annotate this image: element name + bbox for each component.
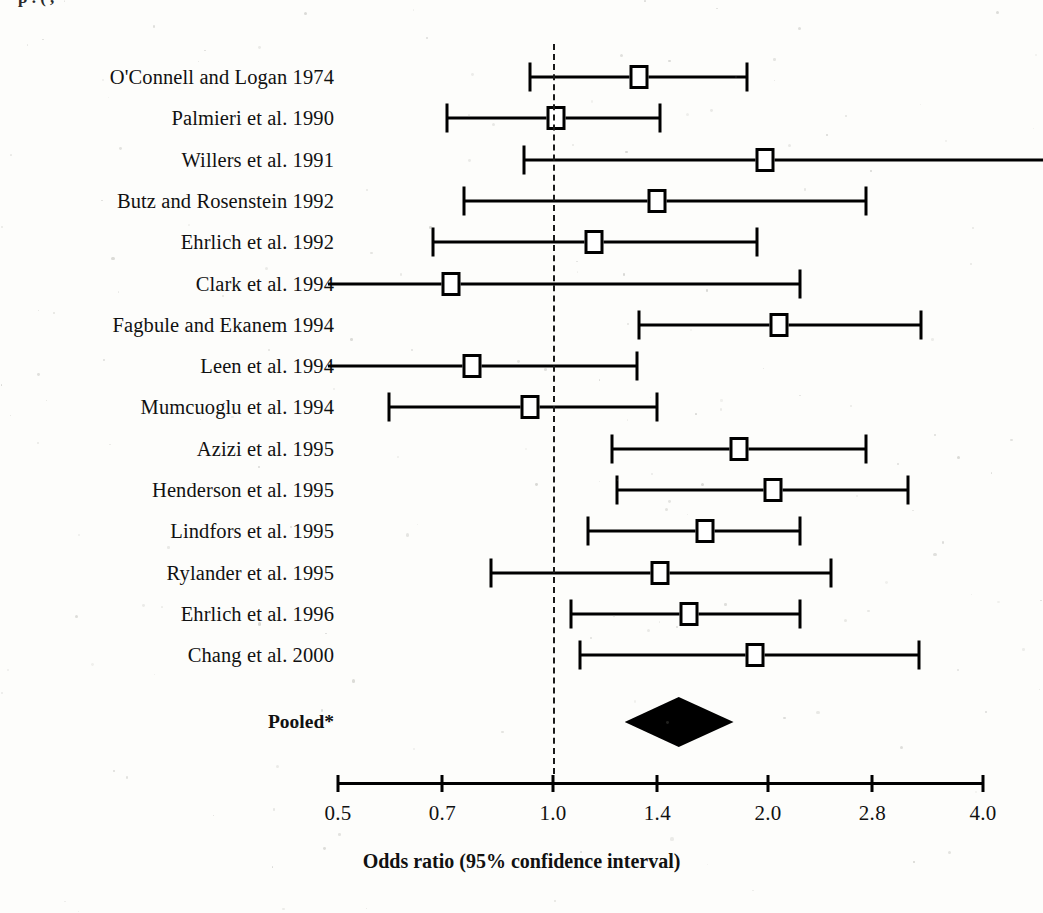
texture-speck (468, 114, 470, 116)
study-label: Lindfors et al. 1995 (170, 520, 334, 543)
texture-speck (153, 25, 156, 28)
x-axis-line (338, 782, 983, 785)
texture-speck (957, 669, 959, 671)
ci-upper-cap (917, 641, 920, 670)
texture-speck (1, 226, 3, 228)
texture-speck (971, 594, 972, 595)
texture-speck (690, 329, 692, 331)
texture-speck (620, 54, 623, 57)
texture-speck (27, 44, 28, 45)
point-estimate-marker (462, 354, 481, 378)
texture-speck (64, 901, 66, 903)
point-estimate-marker (547, 106, 566, 130)
texture-speck (222, 295, 224, 297)
x-axis-tick-label: 4.0 (969, 801, 996, 826)
texture-speck (991, 472, 992, 473)
texture-speck (913, 861, 914, 862)
x-axis-tick (552, 775, 555, 792)
texture-speck (710, 109, 713, 112)
texture-speck (799, 395, 801, 397)
texture-speck (118, 291, 120, 293)
texture-speck (856, 495, 858, 497)
texture-speck (213, 815, 214, 816)
texture-speck (102, 79, 104, 81)
x-axis-tick-label: 0.5 (324, 801, 351, 826)
texture-speck (816, 711, 819, 714)
texture-speck (1035, 54, 1037, 56)
point-estimate-marker (763, 478, 782, 502)
texture-speck (101, 200, 102, 201)
texture-speck (945, 140, 947, 142)
x-axis-tick-label: 1.4 (644, 801, 671, 826)
study-label: Palmieri et al. 1990 (171, 107, 334, 130)
texture-speck (119, 147, 122, 150)
ci-lower-cap (490, 558, 493, 587)
texture-speck (668, 500, 671, 503)
texture-speck (554, 900, 556, 902)
forest-plot: p . ( , O'Connell and Logan 1974Palmieri… (0, 0, 1043, 913)
texture-speck (429, 226, 432, 229)
ci-upper-cap (920, 310, 923, 339)
texture-speck (1033, 128, 1035, 130)
texture-speck (38, 310, 39, 311)
texture-speck (826, 134, 828, 136)
texture-speck (406, 533, 409, 536)
texture-speck (627, 323, 630, 326)
study-label: Leen et al. 1994 (200, 355, 334, 378)
confidence-interval-line (328, 365, 637, 368)
ci-lower-cap (388, 393, 391, 422)
texture-speck (724, 603, 727, 606)
texture-speck (623, 273, 625, 275)
texture-speck (701, 483, 704, 486)
texture-speck (53, 312, 55, 314)
texture-speck (900, 746, 903, 749)
texture-speck (576, 261, 577, 262)
x-axis-tick-label: 1.0 (539, 801, 566, 826)
study-label: O'Connell and Logan 1974 (110, 66, 334, 89)
texture-speck (997, 601, 1000, 604)
ci-lower-cap (522, 145, 525, 174)
ci-upper-cap (658, 104, 661, 133)
study-label: Mumcuoglu et al. 1994 (141, 396, 334, 419)
ci-upper-cap (746, 63, 749, 92)
texture-speck (350, 338, 353, 341)
texture-speck (37, 442, 39, 444)
texture-speck (647, 629, 650, 632)
ci-upper-cap (829, 558, 832, 587)
texture-speck (985, 711, 987, 713)
texture-speck (590, 637, 592, 639)
texture-speck (78, 911, 80, 913)
texture-speck (471, 73, 474, 76)
texture-speck (161, 606, 163, 608)
ci-lower-cap (445, 104, 448, 133)
texture-speck (188, 224, 190, 226)
texture-speck (867, 610, 870, 613)
texture-speck (763, 368, 764, 369)
texture-speck (338, 833, 341, 836)
texture-speck (580, 851, 582, 853)
texture-speck (282, 908, 285, 911)
texture-speck (957, 456, 960, 459)
texture-speck (897, 463, 898, 464)
texture-speck (258, 622, 261, 625)
confidence-interval-line (328, 282, 800, 285)
x-axis-tick-label: 2.0 (754, 801, 781, 826)
texture-speck (651, 473, 653, 475)
texture-speck (91, 663, 94, 666)
point-estimate-marker (442, 272, 461, 296)
x-axis-tick (441, 775, 444, 792)
texture-speck (659, 621, 661, 623)
ci-lower-cap (529, 63, 532, 92)
texture-speck (920, 104, 921, 105)
texture-speck (804, 188, 806, 190)
texture-speck (75, 615, 78, 618)
texture-speck (644, 0, 646, 2)
x-axis-tick (656, 775, 659, 792)
pooled-label: Pooled* (268, 711, 334, 733)
study-label: Ehrlich et al. 1992 (181, 231, 334, 254)
texture-speck (948, 851, 951, 854)
texture-speck (625, 151, 628, 154)
texture-speck (687, 514, 688, 515)
ci-lower-cap (587, 517, 590, 546)
texture-speck (10, 415, 11, 416)
